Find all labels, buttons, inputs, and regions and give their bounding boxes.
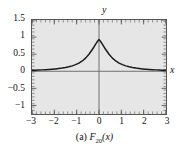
x-tick-label: −2 [44, 117, 64, 126]
caption-prefix: (a) [76, 131, 90, 142]
figure-caption: (a) F20(x) [0, 131, 189, 144]
caption-argument: (x) [102, 131, 113, 142]
x-tick-label: −3 [21, 117, 41, 126]
y-axis-label: y [102, 4, 106, 15]
x-tick-label: 0 [89, 117, 109, 126]
x-tick-label: 2 [134, 117, 154, 126]
x-tick-label: 3 [157, 117, 177, 126]
x-axis-label: x [170, 64, 174, 75]
figure: 1.510.50−0.5−1 −3−2−10123 y x (a) F20(x) [0, 0, 189, 150]
x-tick-label-group: −3−2−10123 [0, 0, 189, 150]
x-tick-label: −1 [66, 117, 86, 126]
x-tick-label: 1 [112, 117, 132, 126]
